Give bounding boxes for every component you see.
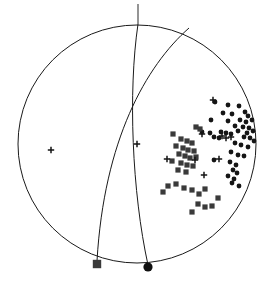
marker-dot (233, 124, 238, 129)
marker-dot (243, 110, 248, 115)
marker-dot (228, 160, 233, 165)
marker-square (202, 204, 207, 209)
marker-dot (241, 125, 246, 130)
marker-dot (246, 114, 251, 119)
marker-square (178, 160, 183, 165)
marker-dot (230, 181, 235, 186)
marker-square (173, 181, 178, 186)
marker-dot (208, 131, 213, 136)
marker-dot (231, 168, 236, 173)
marker-dot (242, 135, 247, 140)
marker-dot (246, 145, 251, 150)
t-axis-marker (143, 262, 152, 271)
marker-square (182, 153, 187, 158)
marker-square (181, 185, 186, 190)
marker-dot (237, 184, 242, 189)
marker-square (170, 131, 175, 136)
marker-square (185, 147, 190, 152)
marker-dot (226, 119, 231, 124)
marker-dot (234, 163, 239, 168)
marker-square (193, 154, 198, 159)
marker-dot (237, 104, 242, 109)
marker-square (209, 203, 214, 208)
marker-dot (230, 112, 235, 117)
marker-dot (212, 158, 217, 163)
marker-square (190, 163, 195, 168)
marker-square (189, 140, 194, 145)
marker-square (176, 151, 181, 156)
marker-dot (212, 135, 217, 140)
marker-square (184, 138, 189, 143)
marker-square (189, 209, 194, 214)
marker-square (173, 143, 178, 148)
marker-dot (236, 129, 241, 134)
marker-dot (239, 143, 244, 148)
marker-dot (235, 171, 240, 176)
marker-square (196, 191, 201, 196)
marker-dot (248, 136, 253, 141)
marker-dot (252, 139, 257, 144)
p-axis-marker (93, 260, 101, 268)
marker-square (178, 136, 183, 141)
marker-square (202, 186, 207, 191)
marker-dot (233, 141, 238, 146)
marker-dot (238, 118, 243, 123)
marker-square (175, 167, 180, 172)
marker-dot (244, 120, 249, 125)
marker-square (180, 145, 185, 150)
marker-dot (242, 154, 247, 159)
stereonet-figure (0, 0, 271, 284)
marker-square (195, 201, 200, 206)
marker-square (183, 169, 188, 174)
marker-square (184, 162, 189, 167)
marker-square (191, 148, 196, 153)
marker-dot (236, 153, 241, 158)
marker-dot (221, 111, 226, 116)
marker-dot (226, 103, 231, 108)
marker-square (189, 187, 194, 192)
marker-dot (245, 131, 250, 136)
marker-dot (224, 131, 229, 136)
marker-dot (226, 174, 231, 179)
marker-square (215, 195, 220, 200)
stereonet-canvas (0, 0, 271, 284)
marker-dot (251, 129, 256, 134)
marker-dot (229, 150, 234, 155)
marker-dot (250, 118, 255, 123)
marker-square (160, 189, 165, 194)
marker-dot (247, 126, 252, 131)
marker-dot (209, 118, 214, 123)
marker-square (165, 183, 170, 188)
